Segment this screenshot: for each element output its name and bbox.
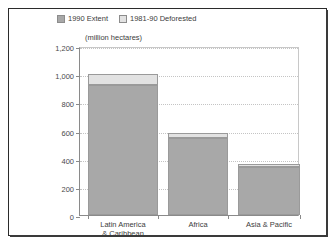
y-tick-mark (76, 189, 80, 190)
legend-swatch-1990-extent (57, 15, 65, 23)
y-tick-mark (76, 104, 80, 105)
figure-border: (million hectares) 1990 Extent 1981-90 D… (8, 8, 327, 236)
legend-label-1981-90-deforested: 1981-90 Deforested (130, 14, 196, 23)
chart-legend: 1990 Extent 1981-90 Deforested (57, 14, 196, 23)
y-axis-unit-caption: (million hectares) (85, 33, 142, 42)
bar-group[interactable]: Asia & Pacific (238, 46, 300, 215)
y-tick-mark (76, 161, 80, 162)
y-tick-mark (76, 133, 80, 134)
bar-group[interactable]: Latin America& Caribbean (88, 46, 158, 215)
x-label-line: & Caribbean (63, 229, 183, 238)
chart-figure: (million hectares) 1990 Extent 1981-90 D… (0, 0, 336, 247)
bar-segment-1981-90-deforested[interactable] (88, 74, 158, 85)
x-axis-category-label: Asia & Pacific (209, 220, 329, 229)
legend-label-1990-extent: 1990 Extent (68, 14, 108, 23)
bar-segment-1981-90-deforested[interactable] (168, 133, 228, 137)
x-tick-mark (158, 215, 159, 219)
bar-segment-1981-90-deforested[interactable] (238, 164, 300, 167)
y-tick-label: 400 (61, 156, 74, 165)
y-tick-mark (76, 217, 80, 218)
x-tick-mark (228, 215, 229, 219)
bar-group[interactable]: Africa (168, 46, 228, 215)
x-tick-mark (88, 215, 89, 219)
x-tick-mark (300, 215, 301, 219)
y-tick-mark (76, 76, 80, 77)
plot-area: 02004006008001,0001,200 Latin America& C… (79, 47, 299, 216)
bar-segment-1990-extent[interactable] (238, 167, 300, 215)
legend-swatch-1981-90-deforested (119, 15, 127, 23)
y-tick-label: 200 (61, 184, 74, 193)
y-tick-label: 800 (61, 100, 74, 109)
y-tick-label: 1,200 (55, 44, 74, 53)
x-label-line: Asia & Pacific (209, 220, 329, 229)
y-tick-label: 600 (61, 128, 74, 137)
legend-item-1981-90-deforested: 1981-90 Deforested (119, 14, 196, 23)
y-tick-mark (76, 48, 80, 49)
bar-segment-1990-extent[interactable] (88, 85, 158, 215)
y-tick-label: 1,000 (55, 72, 74, 81)
bar-segment-1990-extent[interactable] (168, 138, 228, 215)
legend-item-1990-extent: 1990 Extent (57, 14, 108, 23)
